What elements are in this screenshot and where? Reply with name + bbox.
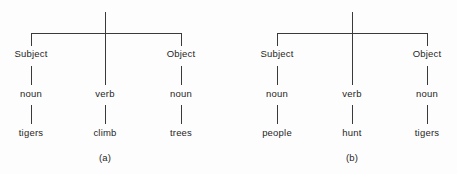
tree-b-center-drop-1 <box>352 33 353 85</box>
tree-b-right-drop-1 <box>427 33 428 46</box>
tree-b-center-drop-3 <box>352 105 353 124</box>
tree-a-left-drop-2 <box>31 66 32 85</box>
tree-b-caption: (b) <box>346 152 358 163</box>
parse-tree-b: Subject Object noun verb noun people hun… <box>228 0 457 174</box>
tree-a-left-role-label: Subject <box>14 48 47 59</box>
tree-b-left-drop-1 <box>277 33 278 46</box>
tree-b-right-word-label: tigers <box>415 127 439 138</box>
tree-a-left-drop-1 <box>31 33 32 46</box>
tree-a-right-word-label: trees <box>170 127 192 138</box>
tree-a-right-drop-2 <box>181 66 182 85</box>
tree-a-top-bar <box>31 33 182 34</box>
tree-a-left-word-label: tigers <box>19 127 43 138</box>
tree-a-right-drop-3 <box>181 105 182 124</box>
tree-a-center-drop-1 <box>105 33 106 85</box>
tree-a-right-drop-1 <box>181 33 182 46</box>
tree-a-root-stem <box>105 12 106 34</box>
tree-b-right-role-label: Object <box>413 48 442 59</box>
tree-b-left-role-label: Subject <box>260 48 293 59</box>
tree-a-left-drop-3 <box>31 105 32 124</box>
tree-a-caption: (a) <box>99 152 111 163</box>
parse-tree-a: Subject Object noun verb noun tigers cli… <box>0 0 229 174</box>
tree-b-center-word-label: hunt <box>342 127 361 138</box>
tree-b-right-drop-3 <box>427 105 428 124</box>
tree-b-right-drop-2 <box>427 66 428 85</box>
tree-a-left-pos-label: noun <box>20 88 42 99</box>
tree-b-right-pos-label: noun <box>416 88 438 99</box>
tree-a-center-drop-3 <box>105 105 106 124</box>
tree-a-right-role-label: Object <box>167 48 196 59</box>
tree-a-center-word-label: climb <box>93 127 116 138</box>
tree-b-left-drop-2 <box>277 66 278 85</box>
tree-b-root-stem <box>352 12 353 34</box>
tree-a-center-pos-label: verb <box>95 88 114 99</box>
figure-canvas: Subject Object noun verb noun tigers cli… <box>0 0 457 174</box>
tree-b-left-pos-label: noun <box>266 88 288 99</box>
tree-b-left-drop-3 <box>277 105 278 124</box>
tree-a-right-pos-label: noun <box>170 88 192 99</box>
tree-b-left-word-label: people <box>262 127 292 138</box>
tree-b-center-pos-label: verb <box>342 88 361 99</box>
